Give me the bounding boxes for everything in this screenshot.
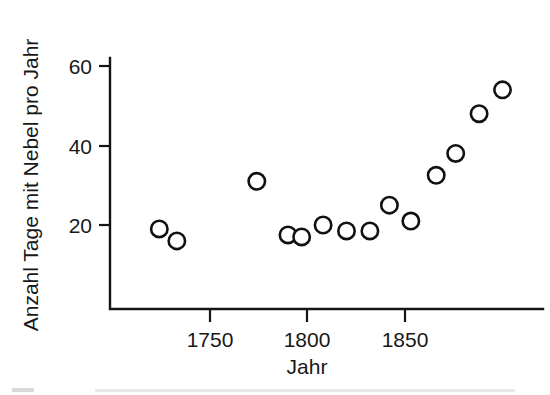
x-tick-label-1850: 1850 <box>382 328 429 351</box>
data-point <box>428 167 444 183</box>
x-tick-label-1800: 1800 <box>284 328 331 351</box>
y-tick-label-20: 20 <box>69 214 92 237</box>
data-point <box>249 173 265 189</box>
data-point <box>315 217 331 233</box>
data-point <box>381 197 397 213</box>
data-point <box>448 145 464 161</box>
scatter-plot: 60 40 20 1750 1800 1850 Jahr Anzahl Tage… <box>0 0 550 395</box>
data-point-group <box>151 82 511 249</box>
data-point <box>151 221 167 237</box>
scan-artifact <box>12 388 34 392</box>
x-tick-label-1750: 1750 <box>187 328 234 351</box>
data-point <box>362 223 378 239</box>
data-point <box>471 106 487 122</box>
axis-spines <box>110 58 543 309</box>
data-point <box>494 82 510 98</box>
y-tick-label-60: 60 <box>69 55 92 78</box>
y-tick-label-40: 40 <box>69 135 92 158</box>
data-point <box>293 229 309 245</box>
scan-artifact-line <box>95 389 515 392</box>
x-axis-title: Jahr <box>287 355 328 378</box>
data-point <box>169 233 185 249</box>
data-point <box>403 213 419 229</box>
chart-figure: 60 40 20 1750 1800 1850 Jahr Anzahl Tage… <box>0 0 550 395</box>
data-point <box>338 223 354 239</box>
y-axis-title: Anzahl Tage mit Nebel pro Jahr <box>19 39 42 332</box>
